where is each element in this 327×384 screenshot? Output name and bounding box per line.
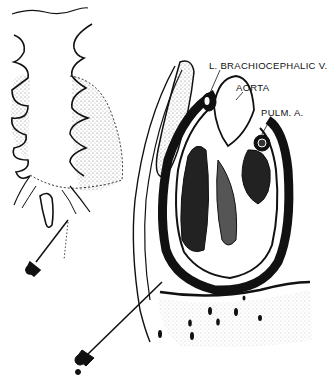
label-aorta: AORTA — [236, 82, 269, 93]
leader-pulm — [262, 120, 270, 134]
costal-margin-left — [14, 176, 30, 205]
fluid-drop — [76, 370, 81, 375]
needle-cap-small — [26, 266, 34, 274]
label-brachiocephalic-vein: L. BRACHIOCEPHALIC V. — [209, 60, 327, 71]
needle-shaft — [88, 282, 162, 354]
needle-shaft-small — [36, 220, 68, 262]
anterior-chest-view — [10, 8, 123, 276]
liver — [158, 290, 312, 347]
xiphoid — [40, 193, 53, 227]
label-pulmonary-artery: PULM. A. — [261, 107, 304, 118]
costal-margin-right2 — [62, 190, 76, 214]
skin-line — [12, 8, 88, 14]
needle-cap — [75, 355, 85, 365]
costal-margin-left2 — [22, 186, 36, 208]
